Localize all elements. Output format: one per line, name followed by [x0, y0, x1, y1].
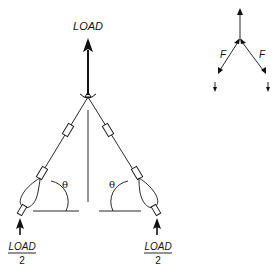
left-reaction-arrow [16, 218, 24, 235]
arrow-up-icon [237, 8, 243, 15]
load-arrow-up [83, 38, 93, 95]
left-half-load-fraction: LOAD 2 [8, 241, 36, 266]
left-angle-label: θ [62, 179, 68, 190]
right-fraction-denominator: 2 [155, 255, 161, 266]
right-reaction-arrow [153, 218, 161, 235]
force-label-left: F [220, 49, 227, 60]
left-fraction-denominator: 2 [19, 255, 25, 266]
sling-diagram: LOAD θ θ LOAD 2 L [0, 0, 278, 272]
arrow-down-icon [213, 87, 217, 92]
left-fraction-numerator: LOAD [8, 241, 35, 252]
right-half-load-fraction: LOAD 2 [144, 241, 172, 266]
arrow-down-icon [266, 87, 270, 92]
top-load-label: LOAD [73, 20, 103, 32]
right-sling-leg [88, 97, 161, 216]
force-label-right: F [259, 49, 266, 60]
right-angle-label: θ [109, 179, 115, 190]
left-sling-leg [17, 97, 88, 216]
right-fraction-numerator: LOAD [144, 241, 171, 252]
